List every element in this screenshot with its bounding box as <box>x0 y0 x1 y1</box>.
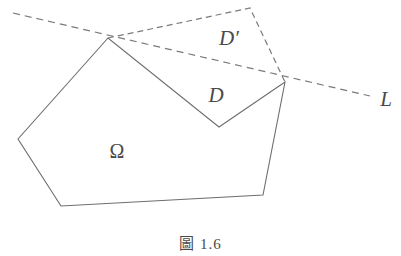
figure-caption-number: 1.6 <box>200 236 222 252</box>
label-line-L: L <box>380 89 392 110</box>
figure-caption: 圖 1.6 <box>0 232 401 253</box>
geometry-diagram <box>0 0 401 256</box>
figure-caption-label: 圖 <box>179 236 195 252</box>
label-d-prime: D′ <box>219 28 239 49</box>
label-d: D <box>208 85 223 106</box>
region-d-prime-outline <box>108 8 285 82</box>
region-omega-outline <box>18 38 285 206</box>
label-omega: Ω <box>110 141 125 161</box>
figure-container: Ω D D′ L 圖 1.6 <box>0 0 401 256</box>
line-L-path <box>13 13 370 96</box>
